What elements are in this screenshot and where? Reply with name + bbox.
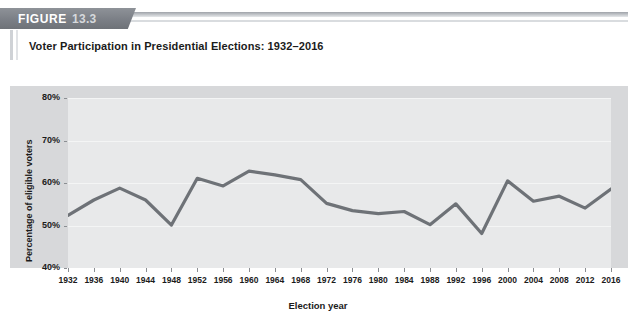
x-tick-mark-2016 [611,268,612,272]
x-tick-mark-2012 [585,268,586,272]
x-tick-mark-1952 [197,268,198,272]
turnout-line-series [68,98,611,268]
x-tick-mark-1956 [223,268,224,272]
x-tick-mark-1940 [120,268,121,272]
left-rule-light [16,30,18,60]
turnout-polyline [68,171,611,233]
y-tick-mark-60 [64,183,67,184]
x-tick-mark-2000 [508,268,509,272]
banner-tail-thin [128,20,628,22]
x-tick-mark-1972 [327,268,328,272]
x-tick-mark-1964 [275,268,276,272]
figure-root: FIGURE 13.3 Voter Participation in Presi… [0,0,636,321]
y-tick-label-40: 40% [20,262,60,272]
x-tick-mark-1948 [171,268,172,272]
x-tick-mark-1932 [68,268,69,272]
x-tick-mark-2004 [533,268,534,272]
y-axis-title: Percentage of eligible voters [24,139,34,262]
x-tick-mark-1980 [378,268,379,272]
figure-label: FIGURE [18,12,67,26]
figure-banner: FIGURE 13.3 [0,8,136,29]
x-tick-label-2016: 2016 [594,275,628,285]
y-tick-mark-70 [64,141,67,142]
x-tick-mark-1944 [146,268,147,272]
x-tick-mark-1968 [301,268,302,272]
x-tick-mark-1960 [249,268,250,272]
x-tick-mark-1936 [94,268,95,272]
figure-number: 13.3 [72,12,97,26]
x-tick-mark-1984 [404,268,405,272]
figure-title: Voter Participation in Presidential Elec… [29,40,324,52]
y-tick-mark-50 [64,226,67,227]
x-tick-mark-1976 [352,268,353,272]
x-tick-mark-2008 [559,268,560,272]
plot-area [68,98,611,268]
y-tick-mark-80 [64,98,67,99]
banner-tail [128,12,628,17]
x-axis-title: Election year [0,300,636,311]
x-tick-mark-1988 [430,268,431,272]
x-tick-mark-1996 [482,268,483,272]
y-tick-label-80: 80% [20,92,60,102]
left-rule-dark [10,30,13,60]
x-tick-mark-1992 [456,268,457,272]
y-tick-mark-40 [64,268,67,269]
